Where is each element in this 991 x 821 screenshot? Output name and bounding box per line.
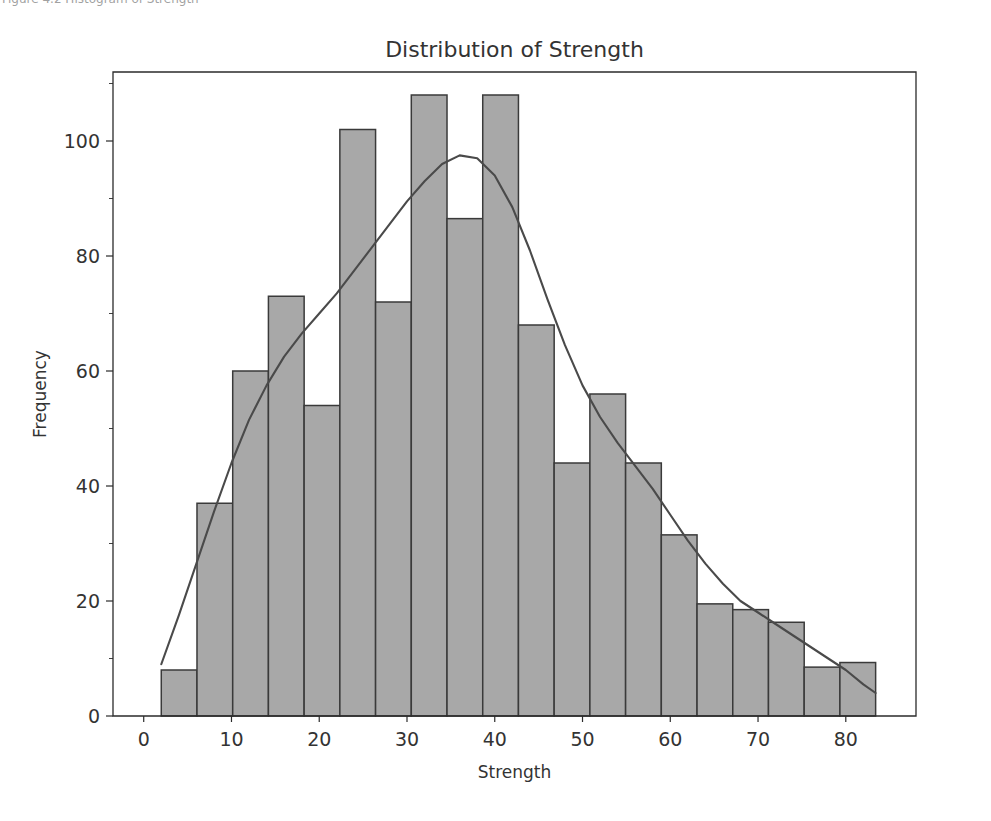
x-tick-label: 10 <box>219 728 243 750</box>
histogram-bar <box>804 667 840 716</box>
histogram-bar <box>697 604 733 716</box>
x-tick-label: 0 <box>138 728 150 750</box>
histogram-bar <box>518 325 554 716</box>
x-tick-label: 80 <box>834 728 858 750</box>
histogram-bar <box>197 503 233 716</box>
y-tick-label: 20 <box>76 590 100 612</box>
x-tick-label: 60 <box>658 728 682 750</box>
x-tick-label: 70 <box>746 728 770 750</box>
figure-canvas: Figure 4.2 Histogram of Strength 0102030… <box>0 0 991 821</box>
y-tick-label: 40 <box>76 475 100 497</box>
histogram-plot: 01020304050607080020406080100Distributio… <box>0 0 991 821</box>
histogram-bar <box>554 463 590 716</box>
x-axis-title: Strength <box>478 762 552 782</box>
histogram-bar <box>411 95 447 716</box>
chart-title: Distribution of Strength <box>385 37 644 62</box>
histogram-bar <box>661 535 697 716</box>
y-axis-title: Frequency <box>30 350 50 438</box>
histogram-bar <box>161 670 197 716</box>
y-tick-label: 80 <box>76 245 100 267</box>
x-tick-label: 50 <box>570 728 594 750</box>
y-tick-label: 100 <box>64 130 100 152</box>
histogram-bar <box>447 219 483 716</box>
y-tick-label: 0 <box>88 705 100 727</box>
histogram-bar <box>733 610 769 716</box>
x-tick-label: 30 <box>395 728 419 750</box>
x-tick-label: 20 <box>307 728 331 750</box>
histogram-bar <box>768 622 804 716</box>
histogram-bar <box>376 302 412 716</box>
histogram-bar <box>590 394 626 716</box>
x-tick-label: 40 <box>483 728 507 750</box>
histogram-bar <box>304 406 340 717</box>
histogram-bar <box>268 296 304 716</box>
histogram-bar <box>626 463 662 716</box>
histogram-bar <box>340 130 376 717</box>
histogram-bar <box>233 371 269 716</box>
y-tick-label: 60 <box>76 360 100 382</box>
